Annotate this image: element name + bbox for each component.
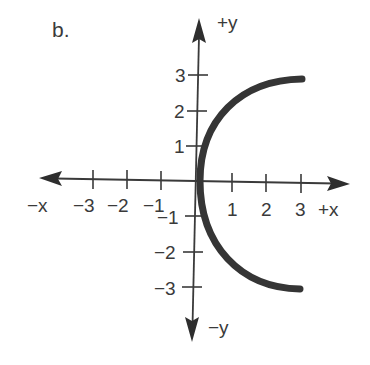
y-tick-label: 1 xyxy=(174,137,185,156)
coordinate-plane xyxy=(0,0,370,365)
y-tick-label: 3 xyxy=(175,66,186,85)
y-tick-label: 2 xyxy=(174,102,185,121)
y-tick-label: −1 xyxy=(157,208,179,227)
x-tick-label: −2 xyxy=(107,196,129,215)
x-tick-label: 1 xyxy=(227,200,238,219)
curve xyxy=(200,79,302,289)
y-tick-label: −2 xyxy=(154,243,176,262)
x-tick-label: −3 xyxy=(73,196,95,215)
x-negative-label: −x xyxy=(27,196,48,215)
y-negative-label: −y xyxy=(208,318,229,337)
x-tick-label: 2 xyxy=(261,200,272,219)
y-positive-label: +y xyxy=(217,13,238,32)
x-tick-label: 3 xyxy=(295,200,306,219)
x-positive-label: +x xyxy=(318,200,339,219)
y-tick-label: −3 xyxy=(154,279,176,298)
